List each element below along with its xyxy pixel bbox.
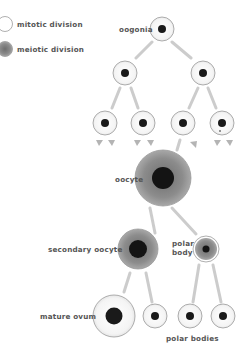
mitotic-legend-swatch — [0, 17, 13, 32]
label-mature-ovum: mature ovum — [40, 312, 96, 321]
cell-l3-4 — [210, 111, 234, 135]
label-oocyte: oocyte — [115, 175, 143, 184]
cell-polar-body-2 — [178, 304, 202, 328]
nucleus-icon — [129, 240, 147, 258]
nucleus-icon — [121, 69, 129, 77]
label-oogonia: oogonia — [119, 25, 153, 34]
nucleus-icon — [186, 312, 194, 320]
cell-mature-ovum — [93, 295, 135, 337]
nucleus-icon — [203, 246, 210, 253]
cell-polar-body-3 — [211, 304, 235, 328]
nucleus-icon — [158, 25, 166, 33]
cell-polar-body-1 — [143, 304, 167, 328]
nucleus-icon — [218, 119, 226, 127]
arrow-heads — [96, 140, 233, 148]
label-polar-body: polar body — [172, 239, 194, 257]
legend-mitotic-label: mitotic division — [17, 20, 83, 29]
legend — [0, 17, 13, 57]
cell-l2-left — [113, 61, 137, 85]
label-polar-body-line2: body — [172, 248, 194, 257]
cell-l3-1 — [93, 111, 117, 135]
nucleus-icon — [199, 69, 207, 77]
nucleus-icon — [139, 119, 147, 127]
cell-l3-3 — [171, 111, 195, 135]
cell-oocyte — [135, 150, 191, 206]
meiotic-legend-swatch — [0, 42, 13, 57]
label-secondary-oocyte: secondary oocyte — [48, 245, 123, 254]
nucleus-icon — [101, 119, 109, 127]
cell-oogonia — [150, 17, 174, 41]
cell-polar-body — [193, 236, 219, 262]
cell-secondary-oocyte — [118, 229, 158, 269]
nucleus-icon — [179, 119, 187, 127]
cell-l2-right — [191, 61, 215, 85]
nucleus-icon — [106, 308, 123, 325]
nucleus-icon — [219, 312, 227, 320]
label-polar-body-line1: polar — [172, 239, 194, 248]
legend-meiotic-label: meiotic division — [17, 45, 84, 54]
cell-l3-2 — [131, 111, 155, 135]
label-polar-bodies: polar bodies — [166, 334, 219, 343]
nucleus-icon — [151, 312, 159, 320]
nucleus-icon — [152, 167, 174, 189]
